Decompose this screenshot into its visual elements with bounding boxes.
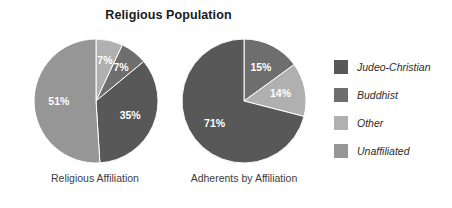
legend-item-buddhist: Buddhist [334, 88, 452, 102]
pie-left-svg: 7%7%35%51% [32, 37, 160, 165]
pie-caption-right: Adherents by Affiliation [160, 172, 328, 184]
legend-item-label: Judeo-Christian [357, 60, 431, 74]
legend-swatch-icon [334, 88, 348, 102]
chart-legend: Judeo-ChristianBuddhistOtherUnaffiliated [334, 60, 452, 172]
legend-swatch-icon [334, 116, 348, 130]
pie-slice-label: 51% [48, 95, 70, 107]
pie-slice-label: 71% [204, 117, 226, 129]
legend-item-unaffiliated: Unaffiliated [334, 144, 452, 158]
pie-slice-label: 14% [270, 87, 292, 99]
chart-figure: Religious Population 7%7%35%51% 15%14%71… [0, 0, 452, 208]
legend-item-label: Unaffiliated [357, 144, 410, 158]
legend-item-label: Buddhist [357, 88, 398, 102]
legend-swatch-icon [334, 144, 348, 158]
pie-slice-label: 7% [113, 61, 129, 73]
legend-swatch-icon [334, 60, 348, 74]
pie-chart-religious-affiliation: 7%7%35%51% [32, 37, 160, 165]
legend-item-label: Other [357, 116, 383, 130]
pie-slice-label: 15% [250, 61, 272, 73]
page-title: Religious Population [0, 8, 337, 22]
pie-right-svg: 15%14%71% [180, 37, 308, 165]
pie-slice-label: 7% [97, 54, 113, 66]
pie-slice-label: 35% [120, 109, 142, 121]
legend-item-judeo-christian: Judeo-Christian [334, 60, 452, 74]
legend-item-other: Other [334, 116, 452, 130]
pie-chart-adherents-by-affiliation: 15%14%71% [180, 37, 308, 165]
